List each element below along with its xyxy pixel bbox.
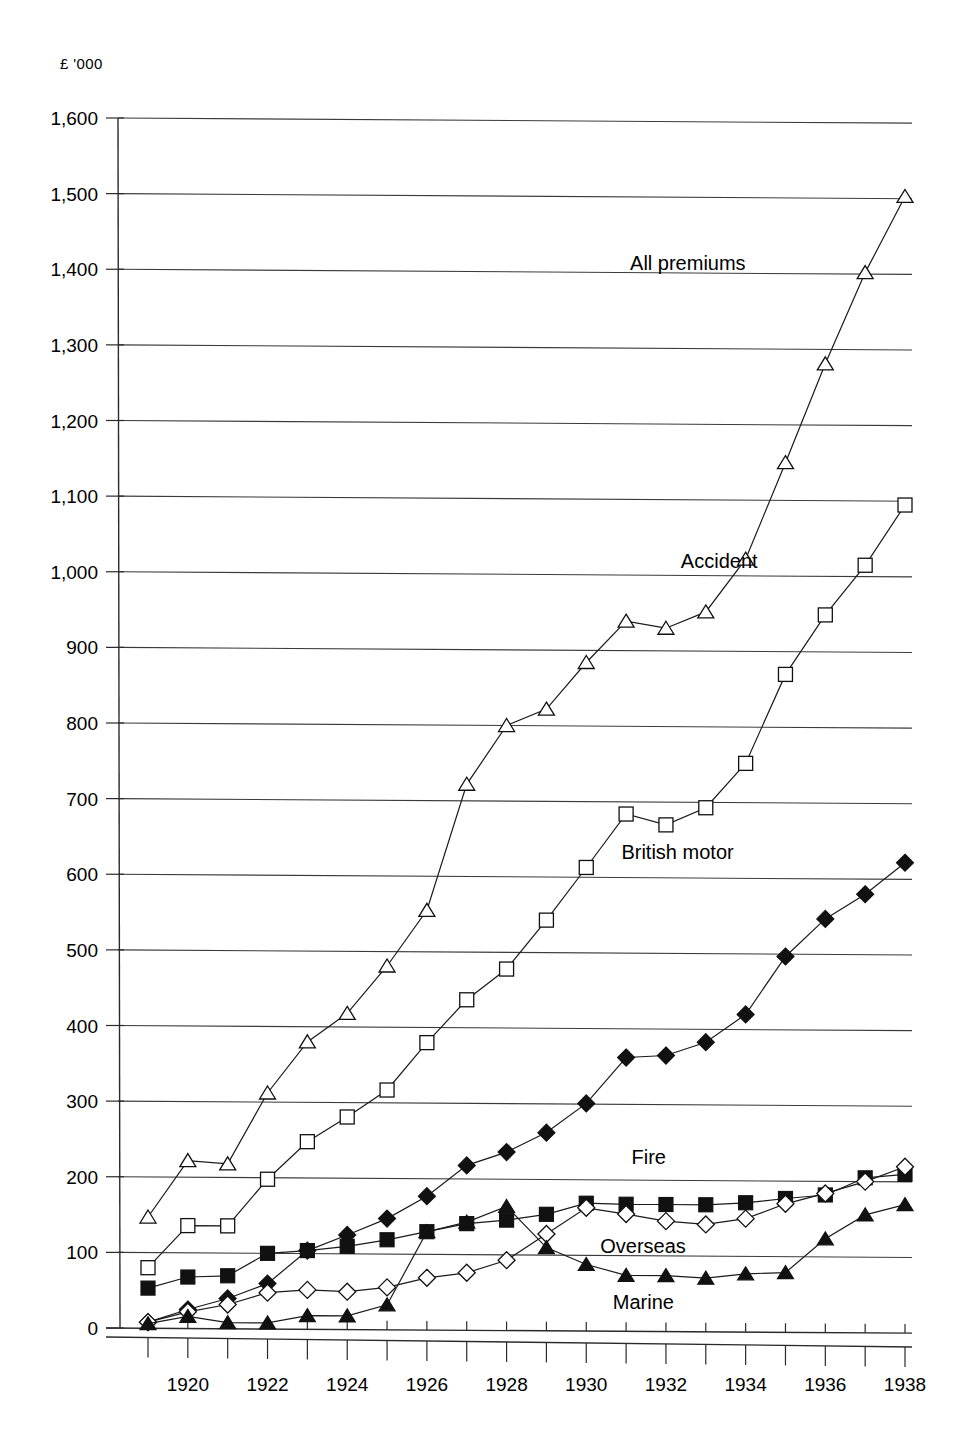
- data-point-marker: [578, 1257, 594, 1270]
- data-point-marker: [299, 1035, 315, 1048]
- y-tick-label: 1,600: [50, 108, 98, 129]
- data-point-marker: [659, 1198, 673, 1212]
- data-point-marker: [739, 756, 753, 770]
- data-point-marker: [380, 1083, 394, 1097]
- data-point-marker: [538, 1124, 555, 1141]
- gridlines: [118, 118, 912, 1258]
- data-point-marker: [221, 1219, 235, 1233]
- data-point-marker: [697, 1034, 714, 1051]
- gridline: [118, 194, 912, 199]
- y-tick-label: 1,300: [50, 335, 98, 356]
- data-point-marker: [737, 1006, 754, 1023]
- y-tick-label: 700: [66, 789, 98, 810]
- gridline: [118, 647, 912, 652]
- data-point-marker: [699, 1198, 713, 1212]
- series-line: [148, 1205, 905, 1324]
- series-label-british-motor: British motor: [621, 841, 734, 863]
- gridline: [118, 421, 912, 426]
- gridline: [118, 950, 912, 955]
- y-tick-label: 200: [66, 1167, 98, 1188]
- data-point-marker: [698, 605, 714, 618]
- series-label-accident: Accident: [681, 550, 758, 572]
- series-label-fire: Fire: [631, 1146, 665, 1168]
- data-point-marker: [380, 1233, 394, 1247]
- data-point-marker: [340, 1110, 354, 1124]
- x-axis-baseline: [106, 1337, 912, 1347]
- series-group: [140, 189, 914, 1330]
- data-point-marker: [500, 962, 514, 976]
- data-point-marker: [339, 1006, 355, 1019]
- gridline: [118, 1101, 912, 1106]
- data-point-marker: [459, 777, 475, 790]
- data-point-marker: [898, 498, 912, 512]
- y-tick-label: 100: [66, 1242, 98, 1263]
- y-tick-label: 800: [66, 713, 98, 734]
- data-point-marker: [418, 1188, 435, 1205]
- y-axis-ticks: 01002003004005006007008009001,0001,1001,…: [50, 108, 124, 1339]
- series-overseas: [140, 1158, 914, 1330]
- data-point-marker: [539, 913, 553, 927]
- data-point-marker: [379, 1298, 395, 1311]
- data-point-marker: [181, 1270, 195, 1284]
- data-point-marker: [261, 1172, 275, 1186]
- data-point-marker: [659, 818, 673, 832]
- data-point-marker: [737, 1210, 754, 1227]
- gridline: [118, 1026, 912, 1031]
- series-annotations: All premiumsAccidentBritish motorFireOve…: [600, 252, 758, 1313]
- data-point-marker: [458, 1264, 475, 1281]
- data-point-marker: [857, 1208, 873, 1221]
- gridline: [118, 345, 912, 350]
- data-point-marker: [657, 1213, 674, 1230]
- data-point-marker: [379, 959, 395, 972]
- data-point-marker: [261, 1246, 275, 1260]
- x-tick-label: 1920: [167, 1374, 209, 1395]
- data-point-marker: [897, 1198, 913, 1211]
- data-point-marker: [299, 1281, 316, 1298]
- x-tick-label: 1934: [724, 1374, 767, 1395]
- data-point-marker: [140, 1210, 156, 1223]
- y-tick-label: 900: [66, 637, 98, 658]
- data-point-marker: [657, 1047, 674, 1064]
- series-line: [148, 1167, 905, 1322]
- y-tick-label: 400: [66, 1016, 98, 1037]
- data-point-marker: [697, 1216, 714, 1233]
- x-tick-label: 1930: [565, 1374, 607, 1395]
- data-point-marker: [619, 807, 633, 821]
- data-point-marker: [777, 456, 793, 469]
- gridline: [118, 269, 912, 274]
- data-point-marker: [141, 1261, 155, 1275]
- data-point-marker: [420, 1036, 434, 1050]
- series-label-all-premiums: All premiums: [630, 252, 746, 274]
- gridline: [118, 496, 912, 501]
- x-tick-label: 1928: [485, 1374, 527, 1395]
- data-point-marker: [141, 1281, 155, 1295]
- data-point-marker: [460, 993, 474, 1007]
- line-chart: 01002003004005006007008009001,0001,1001,…: [0, 0, 965, 1451]
- data-point-marker: [897, 189, 913, 202]
- series-accident: [141, 498, 912, 1275]
- data-point-marker: [300, 1135, 314, 1149]
- y-tick-label: 300: [66, 1091, 98, 1112]
- series-label-overseas: Overseas: [600, 1235, 686, 1257]
- gridline: [118, 723, 912, 728]
- data-point-marker: [498, 1144, 515, 1161]
- data-point-marker: [181, 1219, 195, 1233]
- y-tick-label: 1,100: [50, 486, 98, 507]
- x-tick-label: 1932: [645, 1374, 687, 1395]
- data-point-marker: [739, 1196, 753, 1210]
- data-point-marker: [858, 558, 872, 572]
- series-fire: [141, 1167, 912, 1295]
- data-point-marker: [778, 667, 792, 681]
- series-british-motor: [140, 854, 914, 1330]
- data-point-marker: [379, 1210, 396, 1227]
- data-point-marker: [579, 860, 593, 874]
- x-tick-label: 1938: [884, 1374, 926, 1395]
- y-tick-label: 1,500: [50, 184, 98, 205]
- data-point-marker: [498, 1252, 515, 1269]
- data-point-marker: [340, 1239, 354, 1253]
- chart-page: £ '000 01002003004005006007008009001,000…: [0, 0, 965, 1451]
- gridline: [118, 118, 912, 123]
- data-point-marker: [500, 1213, 514, 1227]
- gridline: [118, 1177, 912, 1182]
- data-point-marker: [818, 608, 832, 622]
